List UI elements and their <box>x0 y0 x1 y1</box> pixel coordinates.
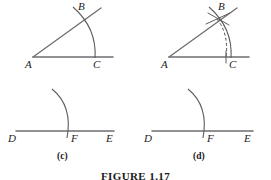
panel-c-drawing <box>0 88 135 176</box>
ray-ab <box>33 8 101 57</box>
panel-d: D F E (d) <box>136 88 271 176</box>
figure-container: A B C A B C D F E (c) <box>0 0 271 180</box>
label-a: A <box>25 59 32 70</box>
dashed-chord-arc <box>217 19 227 57</box>
label-d: D <box>8 133 16 144</box>
panel-b-drawing <box>136 0 271 88</box>
label-a: A <box>161 59 168 70</box>
panel-a-drawing <box>0 0 135 88</box>
label-f: F <box>71 133 78 144</box>
label-b: B <box>218 1 225 12</box>
panel-caption-c: (c) <box>57 152 68 162</box>
figure-caption: FIGURE 1.17 <box>0 171 271 180</box>
label-b: B <box>78 1 85 12</box>
label-c: C <box>229 59 236 70</box>
panel-caption-d: (d) <box>193 152 205 162</box>
label-f: F <box>207 133 214 144</box>
label-e: E <box>244 133 251 144</box>
panel-a: A B C <box>0 0 135 88</box>
label-e: E <box>106 133 113 144</box>
panel-c: D F E (c) <box>0 88 135 176</box>
label-d: D <box>144 133 152 144</box>
panel-b: A B C <box>136 0 271 88</box>
label-c: C <box>93 59 100 70</box>
